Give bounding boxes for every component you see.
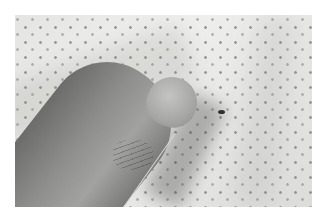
dark-speck <box>218 110 225 114</box>
knuckle-wrinkles <box>113 140 153 170</box>
photo <box>15 15 312 207</box>
